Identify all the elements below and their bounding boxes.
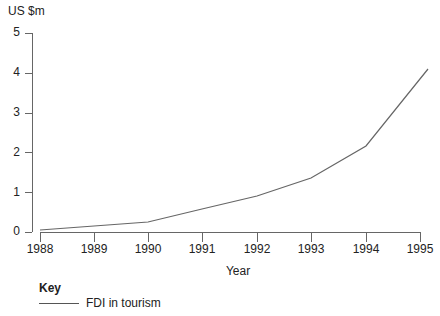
x-axis-label: Year <box>218 264 258 278</box>
legend-line-swatch <box>39 303 79 304</box>
x-tick-1988: 1988 <box>20 242 60 256</box>
legend-label: FDI in tourism <box>86 296 161 310</box>
fdi-line <box>40 69 428 230</box>
x-tick-1992: 1992 <box>237 242 277 256</box>
x-tick-1990: 1990 <box>128 242 168 256</box>
x-tick-1991: 1991 <box>182 242 222 256</box>
legend-title: Key <box>39 281 61 295</box>
x-tick-1994: 1994 <box>346 242 386 256</box>
x-tick-1995: 1995 <box>400 242 440 256</box>
x-tick-1989: 1989 <box>74 242 114 256</box>
x-tick-1993: 1993 <box>291 242 331 256</box>
